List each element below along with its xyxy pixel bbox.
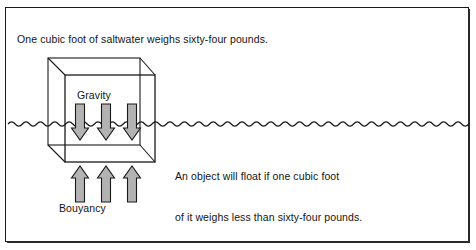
figure-canvas: One cubic foot of saltwater weighs sixty… bbox=[0, 0, 476, 250]
caption-float-rule: An object will float if one cubic foot o… bbox=[175, 143, 362, 250]
bouyancy-arrow bbox=[124, 166, 141, 202]
label-bouyancy: Bouyancy bbox=[59, 202, 106, 214]
gravity-arrows bbox=[72, 104, 141, 140]
bouyancy-arrow bbox=[72, 166, 89, 202]
gravity-arrow bbox=[72, 104, 89, 140]
caption-float-line-1: An object will float if one cubic foot bbox=[175, 170, 362, 184]
caption-saltwater-weight: One cubic foot of saltwater weighs sixty… bbox=[17, 33, 268, 46]
caption-float-line-2: of it weighs less than sixty-four pounds… bbox=[175, 211, 362, 225]
label-gravity: Gravity bbox=[77, 89, 111, 101]
bouyancy-arrows bbox=[72, 166, 141, 202]
bouyancy-arrow bbox=[98, 166, 115, 202]
